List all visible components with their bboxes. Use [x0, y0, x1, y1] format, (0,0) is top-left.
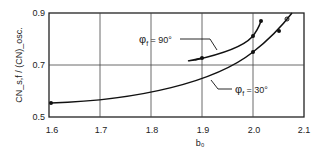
x-tick-1.6: 1.6: [46, 125, 59, 135]
y-axis-label: CN_s,f / (CN)_osc.: [14, 27, 24, 103]
x-axis-label: b₀: [196, 138, 205, 148]
leader-line-30: [211, 80, 232, 89]
y-tick-0.7: 0.7: [32, 60, 45, 70]
series-30-point: [49, 101, 53, 105]
series-90-label: φf = 90°: [139, 33, 172, 47]
y-tick-0.9: 0.9: [32, 8, 45, 18]
x-tick-2.0: 2.0: [248, 125, 261, 135]
series-30-point: [251, 50, 255, 54]
series-30-point: [277, 29, 281, 33]
x-tick-1.7: 1.7: [95, 125, 108, 135]
chart: 0.9 0.7 0.5 1.6 1.7 1.8 1.9 2.0 2.1 b₀ C…: [0, 0, 321, 153]
x-tick-2.1: 2.1: [298, 125, 311, 135]
leader-line-90: [180, 39, 217, 50]
series-90-point: [200, 56, 204, 60]
x-tick-1.9: 1.9: [197, 125, 210, 135]
series-90-point: [251, 34, 255, 38]
series-30-label: φf = 30°: [235, 83, 268, 97]
x-tick-1.8: 1.8: [146, 125, 159, 135]
y-tick-0.5: 0.5: [32, 112, 45, 122]
series-90-point: [259, 19, 263, 23]
